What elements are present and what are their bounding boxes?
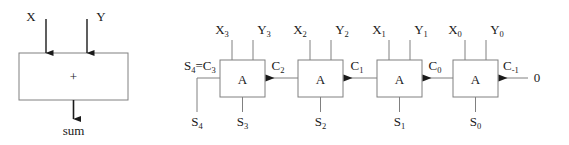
adder-cell-3: A X3 Y3 S3 C2: [215, 22, 298, 131]
carry-label-c0: C0: [429, 58, 442, 75]
carry-out-path: S4=C3 S4: [184, 58, 220, 131]
adder-cell-3-x-label: X3: [215, 22, 229, 39]
adder-diagram-svg: + X Y sum A X3 Y3 S3: [0, 0, 569, 145]
adder-cell-0-y-label: Y0: [490, 22, 504, 39]
carry-in-constant-label: 0: [534, 70, 541, 85]
adder-box-label: +: [70, 69, 77, 84]
adder-cell-1-box-label: A: [395, 72, 405, 87]
adder-cell-2-sum-label: S2: [315, 114, 326, 131]
adder-cell-0: A X0 Y0 S0 C-1 0: [448, 22, 540, 131]
adder-cell-0-sum-label: S0: [470, 114, 481, 131]
adder-cell-0-x-label: X0: [448, 22, 462, 39]
msb-sum-label: S4: [191, 114, 203, 131]
adder-cell-1-x-label: X1: [372, 22, 386, 39]
adder-cell-2: A X2 Y2 S2 C1: [293, 22, 377, 131]
adder-cell-2-y-label: Y2: [335, 22, 349, 39]
carry-label-cminus1: C-1: [503, 58, 519, 75]
carry-out-label: S4=C3: [184, 58, 216, 75]
carry-out-wire: [197, 78, 220, 112]
carry-label-c2: C2: [272, 58, 285, 75]
adder-cell-0-box-label: A: [471, 72, 481, 87]
y-input-label: Y: [96, 9, 106, 24]
adder-cell-3-sum-label: S3: [237, 114, 248, 131]
adder-cell-3-y-label: Y3: [257, 22, 271, 39]
ripple-carry-adder-group: A X3 Y3 S3 C2 A X2: [184, 22, 540, 131]
figure-canvas: + X Y sum A X3 Y3 S3: [0, 0, 569, 145]
carry-label-c1: C1: [351, 58, 364, 75]
adder-cell-1: A X1 Y1 S1 C0: [372, 22, 453, 131]
abstract-adder-group: + X Y sum: [19, 9, 128, 138]
adder-cell-1-sum-label: S1: [394, 114, 405, 131]
adder-cell-2-x-label: X2: [293, 22, 307, 39]
adder-cell-3-box-label: A: [238, 72, 248, 87]
sum-output-label: sum: [63, 123, 85, 138]
adder-cell-2-box-label: A: [316, 72, 326, 87]
adder-cell-1-y-label: Y1: [414, 22, 428, 39]
x-input-label: X: [26, 9, 36, 24]
